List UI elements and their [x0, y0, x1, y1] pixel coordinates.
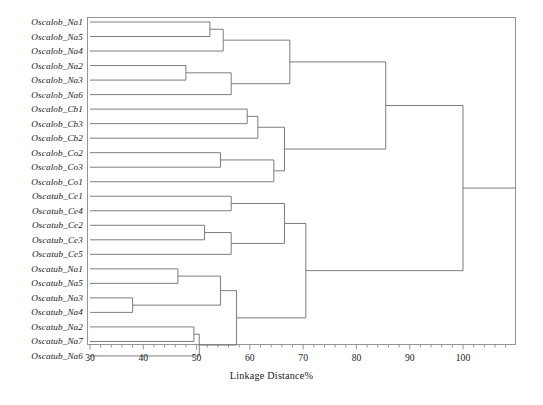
x-tick-label: 90 — [405, 352, 415, 363]
x-tick-label: 50 — [192, 352, 202, 363]
x-tick-label: 80 — [352, 352, 362, 363]
x-tick-label: 30 — [85, 352, 95, 363]
dendrogram-tree — [90, 22, 516, 356]
plot-frame — [88, 18, 516, 345]
x-tick-label: 100 — [456, 352, 470, 363]
x-tick-label: 60 — [245, 352, 255, 363]
axis-ticks — [90, 345, 506, 350]
x-tick-label: 70 — [298, 352, 308, 363]
x-tick-label: 40 — [138, 352, 148, 363]
dendrogram-plot — [0, 0, 543, 405]
x-axis-title: Linkage Distance% — [0, 370, 543, 381]
dendrogram-figure: Oscalob_Na1Oscalob_Na5Oscalob_Na4Oscalob… — [0, 0, 543, 405]
